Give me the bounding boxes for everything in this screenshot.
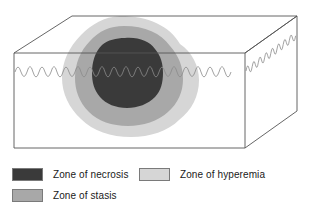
burn-cross-section-diagram — [0, 0, 309, 160]
zone-necrosis-shape — [92, 38, 163, 108]
legend: Zone of necrosis Zone of hyperemia Zone … — [0, 160, 309, 216]
legend-swatch-stasis — [12, 189, 43, 202]
legend-item-stasis: Zone of stasis — [12, 189, 117, 202]
legend-swatch-hyperemia — [139, 168, 170, 181]
legend-item-hyperemia: Zone of hyperemia — [139, 168, 265, 181]
legend-label-necrosis: Zone of necrosis — [53, 168, 129, 181]
legend-item-necrosis: Zone of necrosis — [12, 168, 129, 181]
legend-label-hyperemia: Zone of hyperemia — [180, 168, 265, 181]
legend-label-stasis: Zone of stasis — [53, 189, 117, 202]
legend-swatch-necrosis — [12, 168, 43, 181]
burn-zones-figure: Zone of necrosis Zone of hyperemia Zone … — [0, 0, 309, 216]
